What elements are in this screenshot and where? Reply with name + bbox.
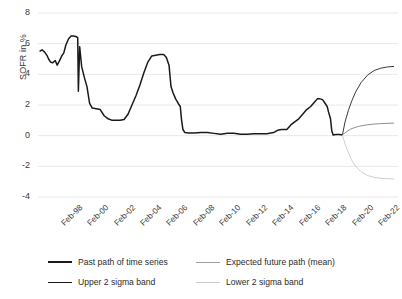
legend-item-upper-sigma-band[interactable]: Upper 2 sigma band: [48, 277, 155, 287]
series-line-expected-future-path: [342, 123, 394, 135]
legend-item-expected-future-path[interactable]: Expected future path (mean): [196, 257, 335, 267]
legend-label-lower-sigma-band: Lower 2 sigma band: [226, 277, 303, 287]
legend-swatch-expected-future-path: [196, 262, 220, 263]
chart-legend: Past path of time series Expected future…: [0, 255, 402, 299]
legend-label-expected-future-path: Expected future path (mean): [226, 257, 335, 267]
chart-container: SOFR in % 86420-2-4 Feb-98Feb-00Feb-02Fe…: [0, 0, 402, 299]
series-line-past-path: [40, 36, 343, 135]
legend-item-past-path[interactable]: Past path of time series: [48, 257, 168, 267]
legend-item-lower-sigma-band[interactable]: Lower 2 sigma band: [196, 277, 303, 287]
series-line-lower-2-sigma-band: [342, 135, 394, 179]
legend-swatch-past-path: [48, 261, 72, 263]
legend-swatch-lower-sigma-band: [196, 282, 220, 283]
legend-label-upper-sigma-band: Upper 2 sigma band: [78, 277, 155, 287]
legend-swatch-upper-sigma-band: [48, 282, 72, 283]
legend-label-past-path: Past path of time series: [78, 257, 168, 267]
